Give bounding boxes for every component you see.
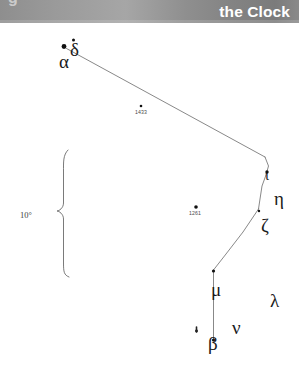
star-chart: δα1433ιη1261ζμλν•β10° — [0, 0, 299, 368]
star-1433-dot — [140, 105, 143, 108]
alpha-to-bend — [67, 49, 266, 158]
stars-group — [62, 39, 269, 342]
star-chart-svg — [0, 0, 299, 368]
alpha-star-dot — [62, 44, 67, 49]
scale-brace — [57, 150, 69, 277]
zeta-star-label: ζ — [261, 216, 269, 235]
scale-bar-label: 10° — [20, 211, 32, 220]
star-1261-label: 1261 — [189, 211, 201, 216]
star-1433-label: 1433 — [135, 110, 147, 115]
mu-star-label: μ — [211, 280, 221, 299]
beta-star-label: β — [208, 334, 218, 353]
mu-star-dot — [212, 269, 215, 272]
zeta-to-mu — [214, 209, 259, 270]
lambda-star-label: λ — [270, 291, 279, 310]
nu-star-label: ν — [232, 318, 241, 337]
delta-star-label: δ — [70, 40, 79, 59]
constellation-lines-group — [67, 49, 269, 342]
scale-brace-group — [57, 150, 69, 277]
eta-star-label: η — [274, 189, 284, 208]
zeta-star-dot — [258, 210, 260, 212]
star-1261-dot — [194, 205, 198, 209]
iota-star-label: ι — [265, 168, 269, 183]
alpha-star-label: α — [59, 52, 69, 71]
